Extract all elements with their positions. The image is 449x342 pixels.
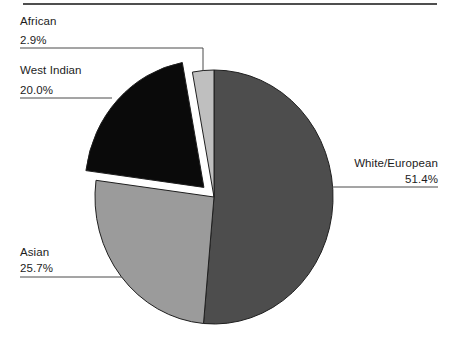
label-african: African	[20, 15, 57, 27]
value-african: 2.9%	[20, 34, 47, 46]
pie-slices	[86, 63, 333, 325]
label-asian: Asian	[20, 246, 49, 258]
slice-white-european	[204, 70, 334, 324]
slice-asian	[95, 180, 214, 323]
pie-chart: African 2.9% West Indian 20.0% Asian 25.…	[0, 0, 449, 342]
slice-west-indian	[86, 63, 204, 188]
value-west-indian: 20.0%	[20, 84, 53, 96]
value-asian: 25.7%	[20, 262, 53, 274]
value-white-european: 51.4%	[405, 173, 438, 185]
label-west-indian: West Indian	[20, 64, 82, 76]
chart-area: African 2.9% West Indian 20.0% Asian 25.…	[0, 0, 449, 342]
label-white-european: White/European	[354, 157, 438, 169]
